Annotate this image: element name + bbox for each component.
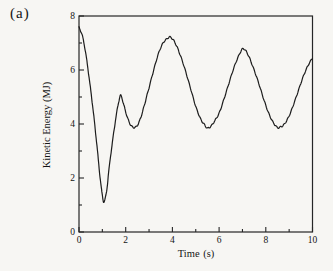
plot-frame [79, 16, 313, 232]
y-tick-label: 2 [57, 173, 75, 184]
y-tick-label: 4 [57, 119, 75, 130]
y-axis-title: Kinetic Energy (MJ) [41, 82, 52, 169]
x-tick-label: 8 [255, 235, 277, 246]
x-tick-label: 4 [161, 235, 183, 246]
x-tick-label: 2 [115, 235, 137, 246]
x-axis-title: Time (s) [178, 248, 215, 259]
y-tick-label: 6 [57, 65, 75, 76]
kinetic-energy-curve [79, 27, 313, 203]
figure-panel: (a) 02468 0246810 Kinetic Energy (MJ) Ti… [0, 0, 333, 271]
x-tick-label: 0 [68, 235, 90, 246]
y-tick-label: 8 [57, 11, 75, 22]
x-tick-label: 10 [302, 235, 324, 246]
x-tick-label: 6 [208, 235, 230, 246]
